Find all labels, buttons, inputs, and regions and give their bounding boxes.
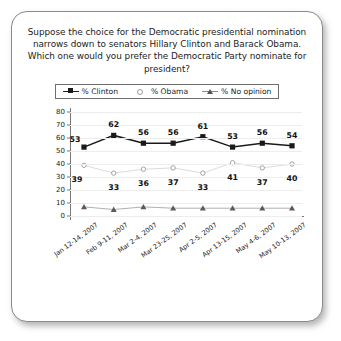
gridline bbox=[70, 112, 302, 113]
legend-item-obama: % Obama bbox=[132, 87, 188, 96]
legend-label-no-opinion: % No opinion bbox=[221, 87, 271, 96]
data-point-marker bbox=[260, 140, 265, 145]
gridline bbox=[70, 203, 302, 204]
data-point-marker bbox=[171, 166, 175, 170]
data-point-marker bbox=[81, 144, 86, 149]
plot-area: 01020304050607080 5362565661535654393336… bbox=[70, 112, 302, 216]
legend-item-clinton: % Clinton bbox=[63, 87, 118, 96]
data-point-marker bbox=[201, 171, 205, 175]
filled-triangle-marker-icon bbox=[202, 87, 218, 95]
data-point-marker bbox=[171, 140, 176, 145]
legend-label-obama: % Obama bbox=[151, 87, 188, 96]
data-label: 37 bbox=[257, 177, 268, 186]
y-axis-tick-mark bbox=[67, 163, 70, 164]
data-label: 40 bbox=[287, 173, 298, 182]
y-axis-tick-mark bbox=[67, 215, 70, 216]
legend-wrapper: % Clinton % Obama % No opinion bbox=[12, 84, 322, 99]
poll-question: Suppose the choice for the Democratic pr… bbox=[26, 26, 308, 75]
y-axis-tick-mark bbox=[67, 124, 70, 125]
legend-item-no-opinion: % No opinion bbox=[202, 87, 271, 96]
data-label: 54 bbox=[287, 130, 298, 139]
data-point-marker bbox=[260, 166, 264, 170]
data-label: 53 bbox=[70, 134, 81, 143]
data-label: 37 bbox=[168, 177, 179, 186]
open-circle-marker-icon bbox=[132, 87, 148, 95]
data-label: 39 bbox=[72, 175, 83, 184]
gridline bbox=[70, 216, 302, 217]
data-point-marker bbox=[141, 167, 145, 171]
data-point-marker bbox=[141, 140, 146, 145]
gridline bbox=[70, 164, 302, 165]
y-axis-tick-mark bbox=[67, 150, 70, 151]
chart-area: 01020304050607080 5362565661535654393336… bbox=[12, 106, 323, 306]
data-label: 56 bbox=[168, 128, 179, 137]
data-label: 33 bbox=[108, 182, 119, 191]
data-label: 53 bbox=[227, 131, 238, 140]
filled-square-marker-icon bbox=[63, 87, 79, 95]
gridline bbox=[70, 125, 302, 126]
chart-legend: % Clinton % Obama % No opinion bbox=[55, 84, 280, 99]
data-point-marker bbox=[112, 171, 116, 175]
data-point-marker bbox=[289, 143, 294, 148]
y-axis-tick-mark bbox=[67, 189, 70, 190]
data-label: 36 bbox=[138, 179, 149, 188]
data-label: 56 bbox=[257, 128, 268, 137]
gridline bbox=[70, 190, 302, 191]
data-point-marker bbox=[230, 144, 235, 149]
data-label: 62 bbox=[108, 120, 119, 129]
y-axis-tick-mark bbox=[67, 176, 70, 177]
data-label: 61 bbox=[197, 121, 208, 130]
data-label: 33 bbox=[197, 182, 208, 191]
gridline bbox=[70, 151, 302, 152]
y-axis-tick-mark bbox=[67, 202, 70, 203]
poll-chart-card: Suppose the choice for the Democratic pr… bbox=[11, 11, 323, 322]
gridline bbox=[70, 138, 302, 139]
data-label: 41 bbox=[227, 172, 238, 181]
data-label: 56 bbox=[138, 128, 149, 137]
y-axis-tick-mark bbox=[67, 111, 70, 112]
legend-label-clinton: % Clinton bbox=[82, 87, 118, 96]
